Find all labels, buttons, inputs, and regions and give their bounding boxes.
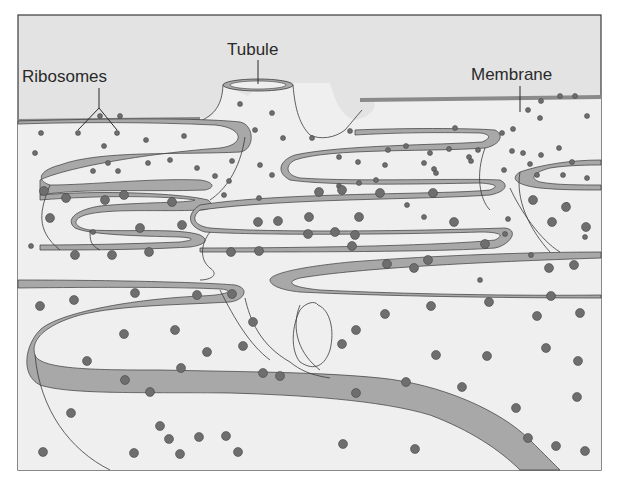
ribosomes-label: Ribosomes [22, 67, 107, 86]
tubule-label: Tubule [227, 40, 278, 59]
er-diagram: Ribosomes Tubule Membrane [0, 0, 617, 491]
membrane-label: Membrane [471, 65, 552, 84]
